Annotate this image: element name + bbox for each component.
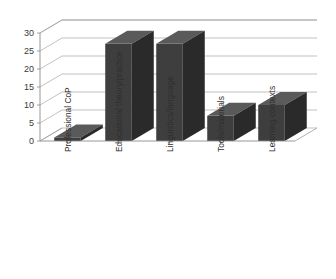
y-tick-label-30: 30 (24, 28, 34, 38)
bar-side-face (132, 31, 154, 141)
y-tick-label-0: 0 (29, 136, 34, 146)
x-category-label-2: Educational theory/practice (114, 51, 124, 152)
y-tick-label-25: 25 (24, 46, 34, 56)
x-category-label-5: Learning contexts (267, 86, 277, 152)
bar-chart: 051015202530 Professional CoPEducational… (0, 0, 336, 279)
y-tick-label-20: 20 (24, 64, 34, 74)
y-tick-label-5: 5 (29, 118, 34, 128)
x-category-label-3: Linguistics/language (165, 76, 175, 152)
x-category-label-1: Professional CoP (63, 87, 73, 152)
x-category-label-4: Tools/materials (216, 96, 226, 152)
chart-canvas: 051015202530 Professional CoPEducational… (0, 0, 336, 279)
y-tick-label-10: 10 (24, 100, 34, 110)
y-tick-label-15: 15 (24, 82, 34, 92)
bar-side-face (183, 31, 205, 141)
